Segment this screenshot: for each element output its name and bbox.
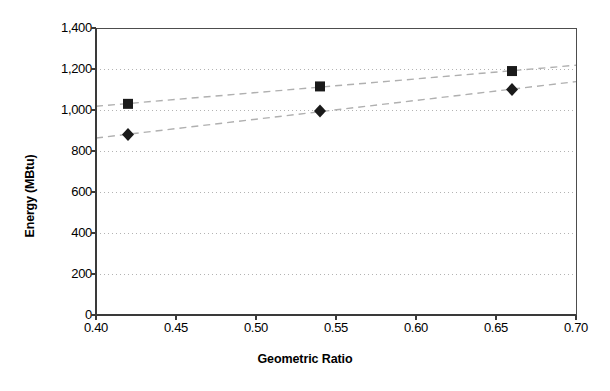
marker-square [123, 99, 133, 109]
chart-figure: Energy (MBtu) 02004006008001,0001,2001,4… [0, 0, 610, 391]
plot-area [0, 0, 610, 391]
marker-square [507, 66, 517, 76]
marker-square [315, 81, 325, 91]
